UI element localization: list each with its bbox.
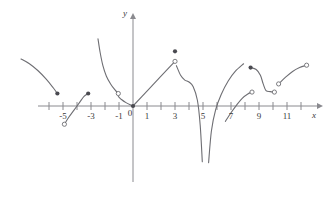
curve-segment bbox=[64, 94, 88, 125]
curve-segment bbox=[209, 64, 244, 163]
curve-segment bbox=[133, 61, 175, 106]
x-tick-label: 9 bbox=[257, 111, 262, 121]
x-tick-label: 3 bbox=[173, 111, 178, 121]
function-curves bbox=[21, 39, 307, 163]
graph-canvas bbox=[0, 0, 336, 200]
open-endpoint-marker bbox=[62, 122, 66, 126]
x-tick-label: 1 bbox=[145, 111, 150, 121]
closed-endpoint-marker bbox=[55, 91, 59, 95]
x-tick-label: -5 bbox=[59, 111, 67, 121]
x-tick-label: 7 bbox=[229, 111, 234, 121]
open-endpoint-marker bbox=[272, 90, 276, 94]
function-graph-figure: y x 0 -5-3-11357911 bbox=[0, 0, 336, 200]
curve-segment bbox=[98, 39, 118, 94]
curve-segment bbox=[279, 65, 307, 84]
y-axis-label: y bbox=[123, 8, 127, 18]
closed-endpoint-marker bbox=[249, 66, 253, 70]
x-tick-label: 5 bbox=[201, 111, 206, 121]
open-endpoint-marker bbox=[305, 63, 309, 67]
closed-endpoint-marker bbox=[86, 91, 90, 95]
open-endpoint-marker bbox=[173, 59, 177, 63]
open-endpoint-marker bbox=[277, 82, 281, 86]
closed-endpoint-marker bbox=[173, 49, 177, 53]
curve-segment bbox=[251, 68, 275, 92]
x-axis-label: x bbox=[312, 110, 316, 120]
curve-segment bbox=[118, 96, 133, 106]
x-tick-label: 11 bbox=[283, 111, 292, 121]
open-endpoint-marker bbox=[116, 91, 120, 95]
x-tick-label: -1 bbox=[115, 111, 123, 121]
x-tick-label: -3 bbox=[87, 111, 95, 121]
origin-label: 0 bbox=[128, 108, 133, 118]
axes-group bbox=[38, 18, 318, 182]
open-endpoint-marker bbox=[250, 90, 254, 94]
curve-segment bbox=[176, 66, 202, 162]
curve-segment bbox=[21, 59, 57, 94]
